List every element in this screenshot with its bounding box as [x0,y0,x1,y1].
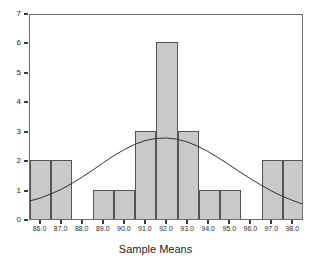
x-tick-mark [39,220,41,224]
x-tick-label: 90.0 [117,225,131,233]
y-tick-label: 2 [17,157,21,165]
x-tick-label: 97.0 [265,225,279,233]
y-tick-label: 5 [17,69,21,77]
histogram-bar [93,190,114,219]
histogram-bar [156,42,177,219]
y-tick-mark [24,101,28,103]
x-tick-label: 91.0 [138,225,152,233]
x-axis: 86.087.088.089.090.091.092.093.094.095.0… [29,220,303,234]
histogram-chart: 01234567 86.087.088.089.090.091.092.093.… [0,0,311,265]
y-tick-label: 6 [17,39,21,47]
x-tick-mark [207,220,209,224]
y-tick-label: 4 [17,98,21,106]
histogram-bar [114,190,135,219]
y-tick-mark [24,190,28,192]
x-tick-mark [270,220,272,224]
x-tick-mark [228,220,230,224]
x-tick-label: 89.0 [96,225,110,233]
x-tick-label: 92.0 [159,225,173,233]
x-tick-mark [123,220,125,224]
x-tick-mark [102,220,104,224]
histogram-bar [262,160,283,219]
x-tick-label: 86.0 [33,225,47,233]
y-tick-mark [24,42,28,44]
x-tick-label: 93.0 [180,225,194,233]
y-tick-mark [24,13,28,15]
y-tick-label: 1 [17,187,21,195]
histogram-bar [178,131,199,219]
x-tick-label: 88.0 [75,225,89,233]
y-axis: 01234567 [0,0,29,221]
x-tick-label: 95.0 [222,225,236,233]
plot-area [29,14,303,220]
x-tick-mark [81,220,83,224]
histogram-bar [220,190,241,219]
y-tick-mark [24,72,28,74]
x-axis-title: Sample Means [0,243,311,255]
x-tick-label: 87.0 [54,225,68,233]
histogram-bar [51,160,72,219]
y-tick-mark [24,131,28,133]
x-tick-label: 98.0 [286,225,300,233]
x-tick-label: 96.0 [243,225,257,233]
x-tick-mark [144,220,146,224]
y-tick-mark [24,160,28,162]
x-tick-mark [186,220,188,224]
x-tick-label: 94.0 [201,225,215,233]
y-tick-label: 7 [17,10,21,18]
y-tick-label: 3 [17,128,21,136]
x-tick-mark [60,220,62,224]
histogram-bar [135,131,156,219]
y-tick-label: 0 [17,216,21,224]
histogram-bar [283,160,303,219]
histogram-bar [30,160,51,219]
y-tick-mark [24,219,28,221]
x-tick-mark [165,220,167,224]
x-tick-mark [249,220,251,224]
histogram-bar [199,190,220,219]
x-tick-mark [291,220,293,224]
